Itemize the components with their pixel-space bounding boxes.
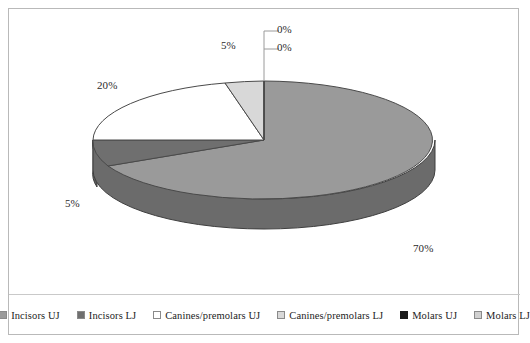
zero-percent-leader-lines xyxy=(264,31,279,81)
legend-label-molars-lj: Molars LJ xyxy=(486,310,530,321)
legend-label-molars-uj: Molars UJ xyxy=(412,310,457,321)
legend-swatch-icon-incisors-uj xyxy=(0,311,7,319)
chart-legend: Incisors UJ Incisors LJ Canines/premolar… xyxy=(9,295,520,335)
chart-frame: 0% 0% 5% 20% 5% 70% Incisors UJ Incisors… xyxy=(8,8,519,335)
pie-top-face xyxy=(93,81,433,199)
legend-item-molars-uj[interactable]: Molars UJ xyxy=(400,310,457,321)
legend-item-incisors-uj[interactable]: Incisors UJ xyxy=(0,310,60,321)
data-label-molars-uj: 0% xyxy=(277,23,292,35)
legend-swatch-icon-molars-uj xyxy=(400,311,408,319)
legend-label-incisors-uj: Incisors UJ xyxy=(11,310,60,321)
legend-label-canines-premolars-lj: Canines/premolars LJ xyxy=(289,310,383,321)
pie-chart-plot-area: 0% 0% 5% 20% 5% 70% xyxy=(9,9,520,294)
data-label-molars-lj: 0% xyxy=(277,41,292,53)
data-label-incisors-uj: 70% xyxy=(413,242,433,254)
legend-label-canines-premolars-uj: Canines/premolars UJ xyxy=(165,310,260,321)
legend-item-molars-lj[interactable]: Molars LJ xyxy=(474,310,530,321)
data-label-incisors-lj: 5% xyxy=(65,197,80,209)
legend-item-canines-premolars-uj[interactable]: Canines/premolars UJ xyxy=(153,310,260,321)
legend-swatch-icon-incisors-lj xyxy=(77,311,85,319)
data-label-canines-premolars-uj: 20% xyxy=(97,79,117,91)
legend-swatch-icon-canines-premolars-uj xyxy=(153,311,161,319)
legend-label-incisors-lj: Incisors LJ xyxy=(89,310,136,321)
pie-chart-3d xyxy=(9,9,520,294)
legend-item-incisors-lj[interactable]: Incisors LJ xyxy=(77,310,136,321)
legend-swatch-icon-canines-premolars-lj xyxy=(277,311,285,319)
data-label-canines-premolars-lj: 5% xyxy=(221,39,236,51)
legend-swatch-icon-molars-lj xyxy=(474,311,482,319)
legend-item-canines-premolars-lj[interactable]: Canines/premolars LJ xyxy=(277,310,383,321)
